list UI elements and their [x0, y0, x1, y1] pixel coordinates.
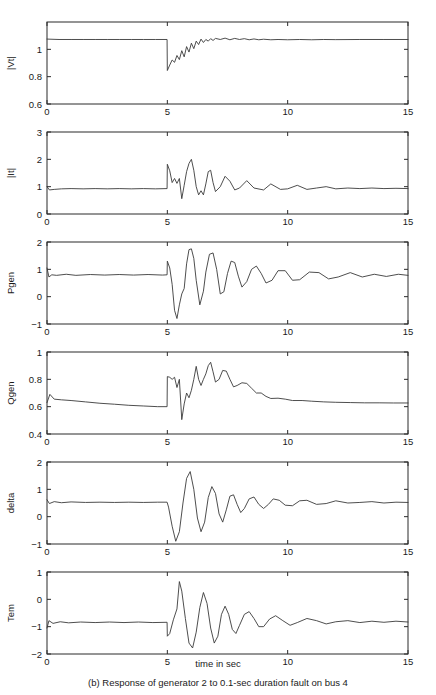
y-axis-label: |Vt| [5, 56, 16, 70]
data-curve [47, 582, 408, 648]
y-tick-label: 2 [37, 238, 42, 248]
y-axis-label: Qgen [5, 381, 16, 404]
y-tick-label: 0 [37, 291, 42, 302]
x-tick-label: 5 [165, 326, 170, 337]
y-tick-label: −1 [31, 539, 42, 550]
y-tick-label: 1 [37, 348, 42, 358]
y-axis-label: delta [5, 492, 16, 513]
data-curve [47, 472, 408, 542]
y-tick-label: 1 [37, 484, 42, 495]
x-tick-label: 15 [403, 326, 414, 337]
subplot-vt: 0.60.81051015|Vt| [0, 18, 436, 122]
y-axis-label: Tem [5, 604, 16, 622]
subplot-tem: −2−101051015Tem [0, 568, 436, 672]
y-tick-label: 1 [37, 264, 42, 275]
y-tick-label: 0 [37, 209, 42, 220]
x-tick-label: 0 [44, 546, 49, 557]
data-curve [47, 362, 408, 419]
subplot-pgen: −1012051015Pgen [0, 238, 436, 342]
plot-frame [47, 242, 408, 324]
y-tick-label: 2 [37, 154, 42, 165]
x-tick-label: 10 [282, 106, 293, 117]
x-tick-label: 5 [165, 546, 170, 557]
x-tick-label: 5 [165, 216, 170, 227]
subplot-it: 0123051015|It| [0, 128, 436, 232]
x-tick-label: 10 [282, 546, 293, 557]
y-tick-label: 0.8 [29, 71, 42, 82]
x-tick-label: 0 [44, 326, 49, 337]
x-tick-label: 10 [282, 326, 293, 337]
x-tick-label: 0 [44, 436, 49, 447]
y-tick-label: 1 [37, 568, 42, 578]
y-tick-label: 0.4 [29, 429, 42, 440]
y-tick-label: 0 [37, 594, 42, 605]
y-tick-label: 1 [37, 181, 42, 192]
y-tick-label: 0 [37, 511, 42, 522]
y-tick-label: 2 [37, 458, 42, 468]
x-tick-label: 15 [403, 106, 414, 117]
x-tick-label: 5 [165, 436, 170, 447]
y-tick-label: 1 [37, 44, 42, 55]
plot-frame [47, 572, 408, 654]
x-tick-label: 0 [44, 106, 49, 117]
y-tick-label: 0.6 [29, 401, 42, 412]
y-axis-label: Pgen [5, 272, 16, 294]
x-tick-label: 5 [165, 106, 170, 117]
figure-caption: (b) Response of generator 2 to 0.1-sec d… [0, 677, 436, 688]
x-tick-label: 10 [282, 436, 293, 447]
data-curve [47, 159, 408, 198]
subplot-delta: −1012051015delta [0, 458, 436, 562]
y-axis-label: |It| [5, 168, 16, 178]
plot-frame [47, 132, 408, 214]
y-tick-label: 0.6 [29, 99, 42, 110]
x-tick-label: 0 [44, 216, 49, 227]
plot-frame [47, 22, 408, 104]
plot-frame [47, 352, 408, 434]
data-curve [47, 249, 408, 319]
subplot-qgen: 0.40.60.81051015Qgen [0, 348, 436, 452]
x-axis-label: time in sec [0, 658, 436, 669]
y-tick-label: −1 [31, 621, 42, 632]
x-tick-label: 10 [282, 216, 293, 227]
data-curve [47, 38, 408, 70]
x-tick-label: 15 [403, 436, 414, 447]
x-tick-label: 15 [403, 216, 414, 227]
y-tick-label: −1 [31, 319, 42, 330]
y-tick-label: 0.8 [29, 374, 42, 385]
x-tick-label: 15 [403, 546, 414, 557]
y-tick-label: 3 [37, 128, 42, 138]
figure-container: 0.60.81051015|Vt| 0123051015|It| −101205… [0, 0, 436, 695]
